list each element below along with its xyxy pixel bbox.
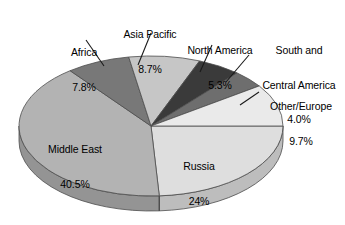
slice-label-north-america: North America 5.3% [178, 22, 262, 114]
slice-label-other-europe: Other/Europe 9.7% [258, 78, 344, 170]
slice-label-russia-value: 24% [166, 196, 232, 208]
slice-label-africa: Africa 7.8% [52, 24, 116, 116]
slice-label-other-europe-name: Other/Europe [258, 101, 344, 113]
slice-label-south-central-america-name-line1: South and [254, 45, 344, 57]
slice-label-other-europe-value: 9.7% [258, 136, 344, 148]
slice-label-middle-east-name: Middle East [32, 144, 118, 156]
slice-label-north-america-name: North America [178, 45, 262, 57]
slice-label-russia: Russia 24% [166, 138, 232, 225]
slice-label-north-america-value: 5.3% [178, 80, 262, 92]
slice-label-middle-east: Middle East 40.5% [32, 121, 118, 213]
slice-label-africa-value: 7.8% [52, 82, 116, 94]
slice-label-russia-name: Russia [166, 161, 232, 173]
slice-label-africa-name: Africa [52, 47, 116, 59]
slice-label-middle-east-value: 40.5% [32, 179, 118, 191]
pie-chart-figure: Africa 7.8% Asia Pacific 8.7% North Amer… [0, 0, 345, 225]
